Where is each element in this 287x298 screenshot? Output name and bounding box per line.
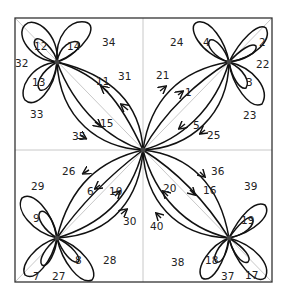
label: 13 xyxy=(32,76,45,88)
node-bottom-right xyxy=(227,236,232,241)
label: 24 xyxy=(170,36,184,48)
node-bottom-left xyxy=(55,236,60,241)
label: 20 xyxy=(163,182,176,194)
label: 32 xyxy=(15,57,28,69)
label: 2 xyxy=(259,36,266,48)
label: 5 xyxy=(193,119,200,131)
label: 31 xyxy=(118,70,131,82)
label: 15 xyxy=(100,117,113,129)
label: 9 xyxy=(33,212,40,224)
label: 8 xyxy=(75,254,82,266)
label: 26 xyxy=(62,165,76,177)
label: 38 xyxy=(171,256,184,268)
label: 23 xyxy=(243,109,256,121)
label: 16 xyxy=(203,184,217,196)
label: 39 xyxy=(244,180,257,192)
label: 33 xyxy=(30,108,43,120)
label: 12 xyxy=(34,40,47,52)
label: 27 xyxy=(52,270,65,282)
label: 29 xyxy=(31,180,44,192)
label: 25 xyxy=(207,129,220,141)
label: 18 xyxy=(205,254,218,266)
label: 30 xyxy=(123,215,136,227)
node-top-right xyxy=(227,60,232,65)
label: 3 xyxy=(246,76,253,88)
label: 11 xyxy=(96,75,109,87)
node-center xyxy=(141,148,146,153)
label: 17 xyxy=(245,269,258,281)
label: 7 xyxy=(33,270,40,282)
loop-diagram: 12 14 34 32 13 33 11 31 15 35 24 4 2 22 … xyxy=(0,0,287,298)
label: 28 xyxy=(103,254,116,266)
node-top-left xyxy=(55,60,60,65)
label: 37 xyxy=(221,270,234,282)
label: 10 xyxy=(109,185,122,197)
label: 34 xyxy=(102,36,116,48)
label: 36 xyxy=(211,165,225,177)
label: 1 xyxy=(185,86,192,98)
label: 22 xyxy=(256,58,269,70)
label: 19 xyxy=(241,214,254,226)
label: 40 xyxy=(150,220,163,232)
label: 21 xyxy=(156,69,169,81)
label: 6 xyxy=(87,185,94,197)
label: 35 xyxy=(72,130,85,142)
label: 14 xyxy=(67,40,81,52)
label: 4 xyxy=(203,36,210,48)
